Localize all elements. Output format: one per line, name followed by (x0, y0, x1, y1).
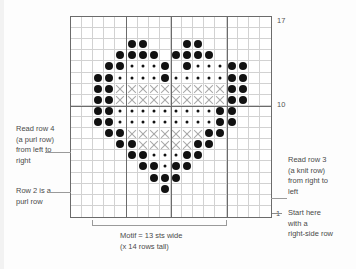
chart-cell (260, 84, 271, 95)
dot-big-icon (161, 174, 169, 182)
chart-cell (204, 61, 215, 72)
chart-cell (260, 161, 271, 172)
x-mark-icon (126, 83, 137, 94)
dot-big-icon (150, 51, 158, 59)
dot-big-icon (194, 140, 202, 148)
chart-cell (249, 117, 260, 128)
chart-cell (171, 39, 182, 50)
chart-cell (171, 73, 182, 84)
x-mark-icon (182, 94, 193, 105)
x-mark-icon (115, 94, 126, 105)
chart-cell (71, 206, 82, 217)
dot-big-icon (205, 129, 213, 137)
chart-cell (93, 39, 104, 50)
dot-small-icon (186, 76, 189, 79)
chart-cell (193, 84, 204, 95)
x-mark-icon (182, 139, 193, 150)
leader-line-row-2 (50, 192, 71, 193)
chart-cell (115, 28, 126, 39)
chart-cell (127, 84, 138, 95)
dot-small-icon (197, 121, 200, 124)
dot-big-icon (105, 118, 113, 126)
dot-small-icon (175, 109, 178, 112)
chart-cell (115, 73, 126, 84)
dot-big-icon (216, 107, 224, 115)
chart-cell (149, 117, 160, 128)
chart-cell (138, 95, 149, 106)
chart-cell (238, 117, 249, 128)
chart-cell (71, 39, 82, 50)
dot-small-icon (130, 65, 133, 68)
dot-small-icon (152, 154, 155, 157)
chart-cell (138, 117, 149, 128)
chart-cell (160, 161, 171, 172)
chart-cell (204, 206, 215, 217)
chart-cell (160, 117, 171, 128)
dot-big-icon (228, 74, 236, 82)
chart-cell (193, 73, 204, 84)
x-mark-icon (193, 128, 204, 139)
x-mark-icon (159, 128, 170, 139)
chart-cell (227, 61, 238, 72)
chart-cell (93, 95, 104, 106)
chart-cell (149, 161, 160, 172)
dot-big-icon (228, 107, 236, 115)
chart-cell (71, 173, 82, 184)
chart-cell (215, 150, 226, 161)
chart-cell (149, 206, 160, 217)
dot-big-icon (139, 151, 147, 159)
chart-cell (127, 195, 138, 206)
chart-cell (160, 184, 171, 195)
chart-cell (149, 106, 160, 117)
chart-cell (93, 150, 104, 161)
dot-big-icon (205, 140, 213, 148)
chart-cell (115, 173, 126, 184)
chart-cell (227, 206, 238, 217)
dot-big-icon (94, 107, 102, 115)
chart-cell (104, 73, 115, 84)
chart-cell (127, 206, 138, 217)
chart-cell (249, 128, 260, 139)
chart-cell (193, 106, 204, 117)
dot-small-icon (141, 65, 144, 68)
chart-cell (171, 50, 182, 61)
chart-cell (171, 195, 182, 206)
chart-cell (193, 195, 204, 206)
chart-cell (182, 50, 193, 61)
chart-cell (127, 184, 138, 195)
chart-cell (93, 84, 104, 95)
chart-cell (215, 195, 226, 206)
dot-big-icon (105, 129, 113, 137)
chart-cell (182, 28, 193, 39)
dot-big-icon (105, 74, 113, 82)
chart-cell (115, 106, 126, 117)
x-mark-icon (137, 83, 148, 94)
chart-cell (238, 195, 249, 206)
x-mark-icon (159, 94, 170, 105)
chart-cell (260, 95, 271, 106)
chart-cell (160, 139, 171, 150)
chart-cell (204, 161, 215, 172)
chart-cell (82, 50, 93, 61)
chart-cell (138, 73, 149, 84)
chart-cell (160, 95, 171, 106)
chart-cell (249, 206, 260, 217)
dot-big-icon (216, 129, 224, 137)
chart-cell (149, 84, 160, 95)
chart-cell (127, 61, 138, 72)
chart-cell (171, 206, 182, 217)
chart-cell (204, 150, 215, 161)
chart-cell (115, 161, 126, 172)
chart-cell (227, 195, 238, 206)
dot-big-icon (116, 62, 124, 70)
dot-small-icon (119, 121, 122, 124)
chart-cell (149, 184, 160, 195)
chart-cell (82, 95, 93, 106)
chart-cell (182, 206, 193, 217)
chart-cell (82, 150, 93, 161)
dot-big-icon (194, 40, 202, 48)
dot-big-icon (228, 118, 236, 126)
dot-small-icon (208, 121, 211, 124)
dot-small-icon (186, 121, 189, 124)
chart-cell (160, 128, 171, 139)
